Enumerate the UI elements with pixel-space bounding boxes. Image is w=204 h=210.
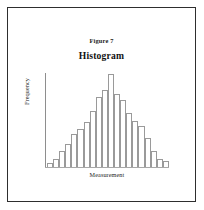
x-axis-title: Measurement <box>45 171 169 178</box>
figure-caption: Figure 7 <box>8 37 195 44</box>
y-axis-line <box>45 73 46 167</box>
x-axis-baseline <box>45 167 169 168</box>
histogram-bars <box>47 74 169 167</box>
chart-title: Histogram <box>8 50 195 61</box>
figure-inner: Figure 7 Histogram Frequency Measurement <box>8 8 195 201</box>
histogram-plot-area <box>45 73 169 167</box>
y-axis-title: Frequency <box>23 62 30 122</box>
figure-frame: Figure 7 Histogram Frequency Measurement <box>7 7 196 202</box>
